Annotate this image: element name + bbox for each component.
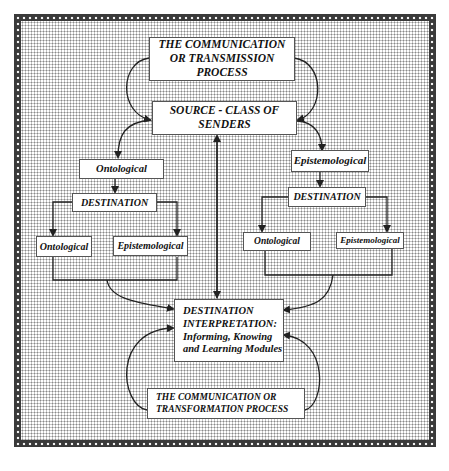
left-destination-box: DESTINATION — [72, 193, 157, 212]
top-process-line-2: OR TRANSMISSION — [159, 52, 286, 66]
source-line-2: SENDERS — [170, 118, 280, 132]
top-process-line-3: PROCESS — [159, 66, 286, 80]
bottom-process-line-1: THE COMMUNICATION OR — [156, 392, 288, 403]
right-child-ontological-box: Ontological — [243, 232, 311, 251]
interpretation-line-3: Informing, Knowing — [183, 331, 282, 344]
bottom-process-line-2: TRANSFORMATION PROCESS — [156, 404, 288, 415]
destination-interpretation-box: DESTINATION INTERPRETATION: Informing, K… — [174, 299, 284, 362]
left-ontological-box: Ontological — [79, 159, 164, 179]
interpretation-line-1: DESTINATION — [183, 305, 282, 318]
right-epistemological-box: Epistemological — [291, 150, 369, 172]
source-class-of-senders-box: SOURCE - CLASS OF SENDERS — [152, 101, 297, 135]
interpretation-line-2: INTERPRETATION: — [183, 318, 282, 331]
communication-transformation-process-box: THE COMMUNICATION OR TRANSFORMATION PROC… — [147, 388, 305, 419]
left-child-ontological-box: Ontological — [36, 236, 92, 257]
source-line-1: SOURCE - CLASS OF — [170, 104, 280, 118]
left-child-epistemological-box: Epistemological — [113, 236, 188, 256]
dotted-background — [21, 21, 429, 440]
top-process-line-1: THE COMMUNICATION — [159, 38, 286, 52]
right-child-epistemological-box: Epistemological — [336, 232, 404, 249]
communication-transmission-process-box: THE COMMUNICATION OR TRANSMISSION PROCES… — [149, 37, 295, 81]
interpretation-line-4: and Learning Modules — [183, 343, 282, 356]
right-destination-box: DESTINATION — [288, 187, 366, 207]
